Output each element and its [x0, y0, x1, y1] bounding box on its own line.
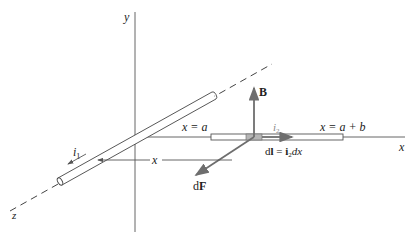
z-axis-label: z	[11, 209, 17, 221]
y-axis-label: y	[123, 10, 130, 24]
current-i1-label: i1	[73, 145, 80, 161]
current-i2-label: i2	[273, 121, 280, 135]
distance-x-label: x	[151, 153, 158, 167]
label-x-equals-a-plus-b: x = a + b	[319, 120, 366, 134]
label-x-equals-a: x = a	[181, 120, 207, 134]
b-field-label: B	[259, 85, 267, 99]
dl-label: dl = i2dx	[265, 145, 302, 159]
df-force-vector	[196, 137, 254, 175]
x-axis-label: x	[398, 140, 405, 154]
wire-1	[56, 92, 217, 186]
diagram-canvas: y x z i1 x = a x = a + b i2 B dl = i2dx …	[0, 0, 420, 241]
df-force-label: dF	[193, 179, 206, 193]
